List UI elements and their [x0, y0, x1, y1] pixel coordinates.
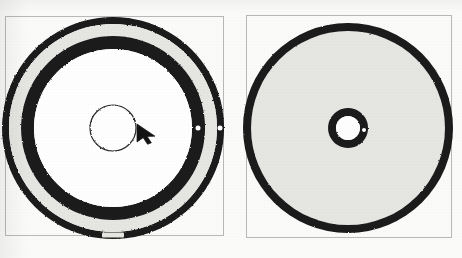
disc-right-graphic: [0, 0, 462, 258]
figure-root: [0, 0, 462, 258]
right-hub-hole: [336, 116, 360, 140]
right-hub-notch: [362, 128, 366, 132]
